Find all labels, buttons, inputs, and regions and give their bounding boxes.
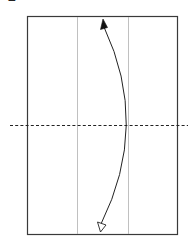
paper-sheet xyxy=(28,17,178,235)
origami-diagram xyxy=(0,0,190,243)
